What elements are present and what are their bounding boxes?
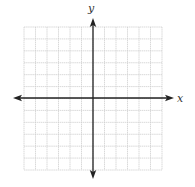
y-axis-label: y	[87, 2, 95, 15]
axes	[13, 18, 174, 179]
coordinate-plane: x y	[0, 0, 195, 187]
x-axis-label: x	[177, 92, 184, 105]
